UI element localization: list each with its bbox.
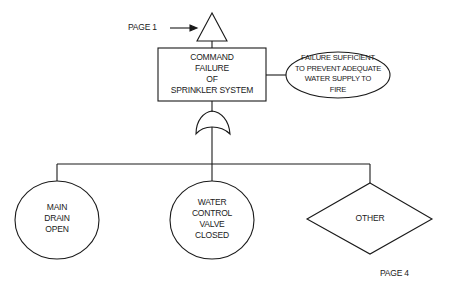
event-line: DRAIN — [15, 213, 99, 224]
event-line: CLOSED — [170, 230, 254, 241]
annotation-line: FIRE — [286, 85, 390, 96]
transfer-triangle-icon — [197, 13, 227, 41]
other-label: OTHER — [330, 213, 410, 224]
event-line: VALVE — [170, 219, 254, 230]
fault-tree-diagram — [0, 0, 449, 289]
top-event-label: COMMAND FAILURE OF SPRINKLER SYSTEM — [158, 52, 266, 96]
annotation-line: FAILURE SUFFICIENT — [286, 53, 390, 64]
top-event-line: COMMAND — [158, 52, 266, 63]
annotation-line: WATER SUPPLY TO — [286, 74, 390, 85]
top-event-line: SPRINKLER SYSTEM — [158, 85, 266, 96]
annotation-line: TO PREVENT ADEQUATE — [286, 64, 390, 75]
annotation-label: FAILURE SUFFICIENT TO PREVENT ADEQUATE W… — [286, 53, 390, 95]
arrowhead-icon — [190, 25, 197, 31]
top-event-line: OF — [158, 74, 266, 85]
event-line: OTHER — [330, 213, 410, 224]
main-drain-label: MAIN DRAIN OPEN — [15, 202, 99, 235]
event-line: MAIN — [15, 202, 99, 213]
top-event-line: FAILURE — [158, 63, 266, 74]
event-line: CONTROL — [170, 208, 254, 219]
or-gate-icon — [196, 111, 230, 134]
page-number: PAGE 4 — [380, 268, 430, 279]
event-line: OPEN — [15, 224, 99, 235]
water-control-valve-label: WATER CONTROL VALVE CLOSED — [170, 197, 254, 241]
transfer-in-label: PAGE 1 — [128, 22, 170, 33]
event-line: WATER — [170, 197, 254, 208]
